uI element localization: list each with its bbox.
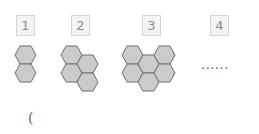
- figure-1: [15, 46, 36, 82]
- hexagon-icon: [154, 46, 175, 64]
- hexagon-icon: [15, 46, 36, 64]
- hexagon-icon: [77, 73, 98, 91]
- hexagon-icon: [77, 55, 98, 73]
- figure-2: [61, 46, 98, 91]
- answer-paren: (: [28, 110, 33, 126]
- hexagon-icon: [15, 64, 36, 82]
- hexagon-icon: [154, 64, 175, 82]
- figure-3: [122, 46, 175, 91]
- continuation-dots: ......: [201, 57, 229, 72]
